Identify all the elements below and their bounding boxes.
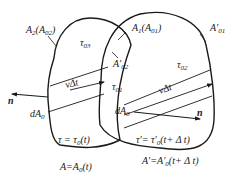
- label-left-area-equation: A=A0(t): [59, 161, 93, 174]
- label-A2: A2(A02): [25, 24, 56, 37]
- label-right-area-equation: A′=A′0(t+ Δ t): [141, 155, 199, 168]
- label-normal-right: n: [197, 107, 203, 118]
- normal-vector-left: [12, 94, 48, 97]
- normal-vector-right: [134, 112, 200, 119]
- leader-A2: [48, 36, 56, 46]
- label-tau-03: τ03: [80, 37, 91, 50]
- label-right-tau-equation: τ′= τ′0(t+ Δ t): [136, 134, 191, 147]
- label-normal-left: n: [8, 95, 14, 106]
- streamline-left-bottom: [48, 94, 104, 112]
- label-v-delta-t-right: νΔt: [157, 81, 173, 96]
- label-A1: A1(A01): [131, 22, 162, 35]
- leader-A-prime-01: [200, 34, 206, 42]
- leader-A1: [118, 32, 126, 40]
- label-A-prime-01: A′01: [209, 22, 225, 35]
- label-tau-02: τ02: [177, 59, 188, 72]
- label-dA0-left: dA0: [30, 108, 45, 121]
- control-volume-diagram: A2(A02) τ03 A1(A01) A′01 A′02 τ02 τ01 νΔ…: [0, 0, 233, 177]
